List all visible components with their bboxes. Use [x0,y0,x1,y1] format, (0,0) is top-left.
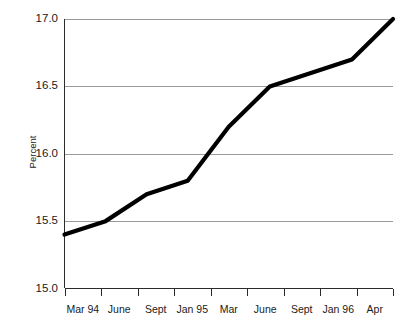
line-chart: 17.016.516.015.515.0 Mar 94JuneSeptJan 9… [0,0,410,335]
x-tick-labels-group: Mar 94JuneSeptJan 95MarJuneSeptJan 96Apr [66,303,383,315]
y-tick-label: 15.5 [36,214,58,226]
x-tick-label: Jan 95 [176,303,208,315]
chart-background [0,0,410,335]
x-tick-label: Sept [291,303,313,315]
x-tick-label: Apr [367,303,384,315]
y-tick-label: 17.0 [36,12,58,24]
y-tick-label: 15.0 [36,282,58,294]
y-tick-label: 16.5 [36,79,58,91]
x-tick-label: Mar 94 [66,303,99,315]
x-tick-label: Mar [220,303,239,315]
x-tick-label: Sept [145,303,167,315]
x-tick-label: June [108,303,131,315]
y-tick-label: 16.0 [36,147,58,159]
y-axis-title: Percent [27,135,38,168]
x-tick-label: June [254,303,277,315]
chart-container: 17.016.516.015.515.0 Mar 94JuneSeptJan 9… [0,0,410,335]
x-tick-label: Jan 96 [322,303,354,315]
